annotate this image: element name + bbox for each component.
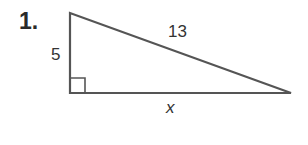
side-label-vertical: 5	[51, 45, 60, 65]
right-triangle-diagram	[0, 0, 308, 145]
side-label-hypotenuse: 13	[168, 22, 187, 42]
side-label-horizontal: x	[166, 98, 175, 118]
right-angle-marker	[70, 78, 85, 93]
